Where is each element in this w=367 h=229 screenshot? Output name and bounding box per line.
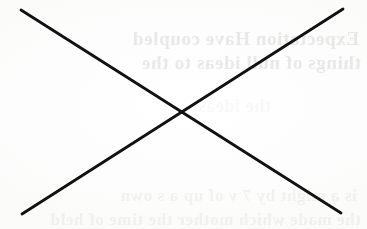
cross-out-mark (0, 0, 367, 229)
bleed-through-text-layer: Expectation Have coupled things of null … (0, 0, 367, 229)
scanned-page: Expectation Have coupled things of null … (0, 0, 367, 229)
bleed-through-line-4: is a might by 7 v of up a s own (120, 186, 357, 206)
paper-texture (0, 0, 367, 229)
bleed-through-line-5: the made which mother the time of held (50, 210, 361, 229)
cross-out-svg (0, 0, 367, 229)
bleed-through-line-1: Expectation Have coupled (132, 28, 359, 50)
bleed-through-line-2: things of null ideas to the (142, 52, 361, 74)
cross-stroke-nw-se (21, 10, 341, 213)
cross-stroke-ne-sw (22, 9, 343, 214)
bleed-through-line-3: the ideas (198, 96, 271, 117)
